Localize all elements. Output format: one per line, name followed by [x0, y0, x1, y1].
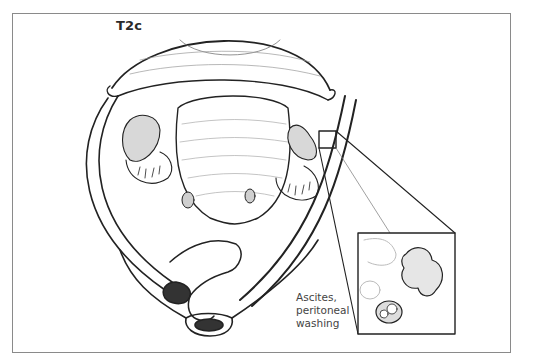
- pelvic-anatomy-illustration: [0, 0, 536, 361]
- ascites-callout-label: Ascites, peritoneal washing: [296, 291, 349, 330]
- iliac-vessels: [120, 240, 318, 336]
- left-ovary-tumor: [123, 115, 172, 183]
- callout-line-3: washing: [296, 317, 349, 330]
- bladder-dome: [107, 40, 335, 100]
- rectum-colon: [163, 241, 241, 321]
- callout-line-2: peritoneal: [296, 304, 349, 317]
- cytology-inset: [358, 233, 455, 334]
- callout-line-1: Ascites,: [296, 291, 349, 304]
- stage-label: T2c: [116, 18, 142, 33]
